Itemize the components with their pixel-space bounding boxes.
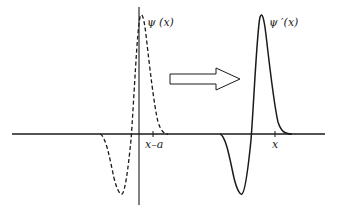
psi-prime-curve-solid — [220, 15, 292, 194]
x-label: x — [272, 138, 279, 151]
translation-diagram: ψ (x) x–a ψ ′(x) x — [0, 0, 338, 215]
psi-prime-label: ψ ′(x) — [269, 16, 298, 29]
psi-curve-dashed — [100, 15, 168, 194]
x-minus-a-label: x–a — [145, 138, 163, 151]
psi-label: ψ (x) — [147, 16, 174, 29]
translation-arrow-icon — [170, 68, 240, 90]
